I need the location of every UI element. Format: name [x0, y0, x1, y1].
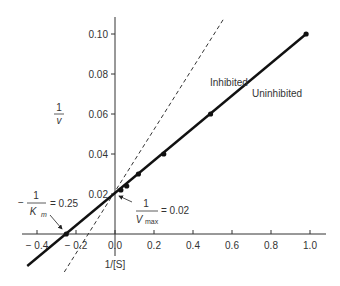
x-axis-label: 1/[S] [105, 259, 126, 270]
data-point [118, 187, 123, 192]
svg-text:1: 1 [56, 102, 62, 113]
y-tick-label: 0.02 [89, 189, 109, 200]
y-tick-label: 0.10 [89, 29, 109, 40]
inhibited-label: Inhibited [210, 77, 248, 88]
y-axis-label: 1 v [54, 102, 64, 126]
x-tick-label: 0.6 [225, 240, 239, 251]
x-tick-label: 0.8 [264, 240, 278, 251]
svg-text:= 0.25: = 0.25 [50, 198, 79, 209]
data-point [161, 151, 166, 156]
svg-text:= 0.02: = 0.02 [161, 205, 190, 216]
km-annotation: − 1 K m = 0.25 [18, 190, 78, 229]
y-tick-label: 0.06 [89, 109, 109, 120]
x-tick-label: 0.2 [147, 240, 161, 251]
x-tick-label: 1.0 [303, 240, 317, 251]
svg-text:1: 1 [143, 198, 149, 209]
uninhibited-label: Uninhibited [252, 88, 302, 99]
y-tick-label: 0.04 [89, 149, 109, 160]
data-point [64, 231, 69, 236]
data-point [136, 171, 141, 176]
x-tick-label: 0.0 [108, 240, 122, 251]
lineweaver-burk-chart: − 0.4− 0.20.00.20.40.60.81.0 0.020.040.0… [0, 0, 340, 286]
svg-text:K: K [30, 206, 38, 217]
x-ticks: − 0.4− 0.20.00.20.40.60.81.0 [26, 230, 318, 251]
vmax-annotation: 1 V max = 0.02 [119, 196, 190, 225]
svg-text:max: max [145, 218, 159, 225]
x-tick-label: − 0.4 [26, 240, 49, 251]
svg-text:1: 1 [33, 190, 39, 201]
svg-text:v: v [57, 115, 63, 126]
y-tick-label: 0.08 [89, 69, 109, 80]
data-point [124, 183, 129, 188]
data-point [304, 31, 309, 36]
x-tick-label: − 0.2 [65, 240, 88, 251]
svg-text:−: − [18, 197, 24, 208]
svg-text:m: m [41, 211, 47, 218]
svg-text:V: V [136, 214, 144, 225]
uninhibited-line [27, 34, 306, 266]
x-tick-label: 0.4 [186, 240, 200, 251]
data-point [208, 111, 213, 116]
y-ticks: 0.020.040.060.080.10 [89, 29, 115, 200]
